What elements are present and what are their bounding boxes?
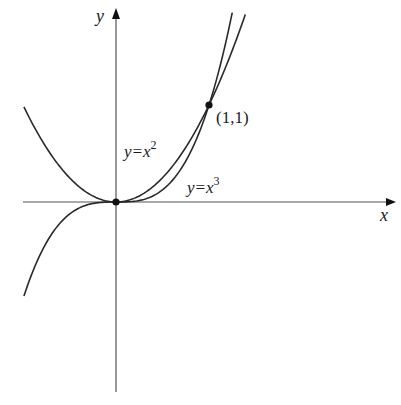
y-axis-arrow-icon [112,8,120,19]
cubic-exponent: 3 [214,174,220,188]
parabola-curve [24,15,245,202]
parabola-exponent: 2 [151,138,157,152]
x-axis-label: x [379,205,388,225]
intersection-label: (1,1) [216,108,249,127]
cubic-label: y=x3 [185,174,220,197]
parabola-label: y=x2 [122,138,157,161]
cubic-equation: y=x [185,178,214,197]
intersection-point [205,101,212,108]
origin-point [112,198,119,205]
graph-figure: y x y=x2 y=x3 (1,1) [0,0,401,405]
y-axis-label: y [94,6,104,26]
parabola-equation: y=x [122,142,151,161]
